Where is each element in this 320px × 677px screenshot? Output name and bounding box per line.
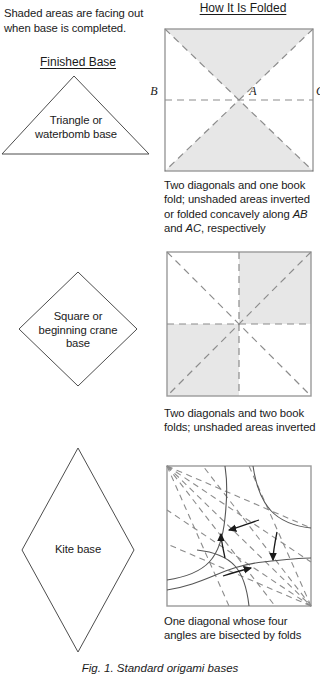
fold-diagram-square-crane (163, 250, 315, 402)
column-heading-how-it-is-folded: How It Is Folded (178, 1, 308, 16)
caption-emphasis-AB: AB (293, 208, 308, 220)
fold-curve-center-lower (225, 466, 227, 518)
rhombus-outline (22, 448, 134, 652)
finished-base-kite: Kite base (0, 446, 156, 654)
fold-arrow-3 (273, 532, 277, 560)
fold-arrow-1 (229, 520, 259, 530)
caption-part-1: One diagonal whose four angles are bisec… (164, 615, 301, 641)
fold-diagram-kite (163, 462, 315, 610)
caption-part-1: Two diagonals and two book folds; unshad… (164, 407, 316, 433)
vertex-label-B: B (150, 84, 158, 98)
shaded-region-bottom-left (167, 324, 239, 396)
caption-triangle: Two diagonals and one book fold; unshade… (164, 178, 320, 236)
caption-square-crane: Two diagonals and two book folds; unshad… (164, 406, 320, 435)
diamond-outline (19, 272, 137, 386)
vertex-label-A: A (248, 84, 257, 98)
caption-part-2: and (164, 222, 186, 234)
fold-diagram-triangle: B A C (163, 27, 315, 173)
fold-arrows (221, 520, 277, 576)
fold-curve-center-upper (167, 518, 225, 580)
caption-emphasis-AC: AC (186, 222, 202, 234)
fold-curve-bottom (197, 550, 249, 606)
triangle-outline (2, 76, 149, 154)
column-heading-finished-base: Finished Base (20, 55, 136, 70)
shaded-areas-note: Shaded areas are facing out when base is… (4, 6, 156, 35)
fold-curve-lower-left (167, 562, 263, 590)
fold-curve-upper-right (253, 466, 311, 528)
caption-part-3: , respectively (201, 222, 266, 234)
finished-base-diamond: Square or beginning crane base (0, 270, 156, 388)
shaded-region-bottom (165, 100, 313, 171)
vertex-label-C: C (316, 84, 320, 98)
shaded-region-top (165, 29, 313, 100)
fold-line-bisector-tl-1 (167, 466, 311, 528)
caption-kite: One diagonal whose four angles are bisec… (164, 614, 320, 643)
caption-part-1: Two diagonals and one book fold; unshade… (164, 179, 310, 220)
fold-curve-lower-right (263, 558, 311, 562)
finished-base-triangle: Triangle or waterbomb base (0, 74, 156, 158)
figure-caption: Fig. 1. Standard origami bases (0, 661, 320, 675)
